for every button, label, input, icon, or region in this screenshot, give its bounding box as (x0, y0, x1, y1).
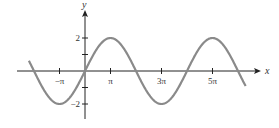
y-tick-label: −2 (70, 99, 80, 109)
x-tick-label: 3π (157, 76, 167, 86)
y-axis-label: y (81, 0, 87, 10)
x-axis-label: x (264, 65, 270, 76)
sine-chart: −ππ3π5π 2−2 x y (0, 0, 279, 128)
y-tick-label: 2 (76, 33, 81, 43)
x-tick-label: −π (55, 76, 65, 86)
x-tick-label: π (108, 76, 113, 86)
x-tick-label: 5π (208, 76, 218, 86)
